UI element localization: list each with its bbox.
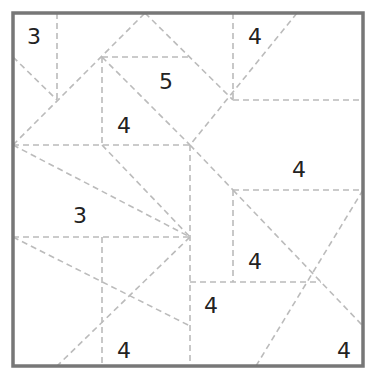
clue-number: 4 <box>117 340 131 362</box>
board-border <box>13 13 363 366</box>
clue-number: 4 <box>204 295 218 317</box>
dashed-guide-lines <box>13 13 363 366</box>
guide-line <box>190 13 297 145</box>
clue-number: 5 <box>159 71 173 93</box>
clue-number: 4 <box>292 159 306 181</box>
clue-number: 4 <box>337 340 351 362</box>
guide-line <box>13 57 57 100</box>
guide-line <box>102 145 190 237</box>
clue-number: 3 <box>27 26 41 48</box>
guide-line <box>190 145 233 190</box>
puzzle-board[interactable] <box>0 0 388 386</box>
guide-line <box>102 57 190 145</box>
clue-number: 3 <box>73 205 87 227</box>
clue-number: 4 <box>117 115 131 137</box>
guide-line <box>13 145 190 237</box>
clue-number: 4 <box>248 26 262 48</box>
clue-number: 4 <box>248 251 262 273</box>
